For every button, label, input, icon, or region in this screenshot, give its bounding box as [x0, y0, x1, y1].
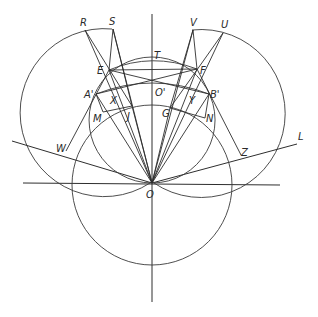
line-OW-extended [12, 141, 152, 183]
line-EF [109, 69, 197, 70]
label-G: G [162, 108, 170, 119]
label-B-prime: B' [210, 89, 220, 100]
label-M: M [93, 113, 102, 124]
label-O: O [146, 189, 154, 200]
label-A-prime: A' [83, 89, 94, 100]
label-J: J [125, 111, 130, 122]
label-O-prime: O' [155, 87, 166, 98]
ray-O-E [109, 70, 152, 183]
label-U: U [221, 19, 229, 30]
label-L: L [298, 131, 304, 142]
label-V: V [190, 17, 198, 28]
label-F: F [200, 65, 206, 76]
label-Z: Z [240, 147, 249, 158]
label-X: X [109, 95, 118, 106]
line-G-N [170, 108, 205, 118]
label-W: W [56, 143, 67, 154]
label-S: S [109, 16, 116, 27]
line-V-F [193, 30, 197, 69]
label-R: R [80, 17, 87, 28]
label-N: N [206, 113, 214, 124]
line-S-E [109, 29, 113, 70]
label-Y: Y [189, 95, 196, 106]
ray-O-G [152, 108, 170, 183]
label-E: E [97, 65, 104, 76]
label-T: T [154, 50, 161, 61]
left-circle [20, 29, 150, 197]
geometry-diagram: R S V U T E F A' B' O' X Y M N J G W Z L… [0, 0, 318, 317]
